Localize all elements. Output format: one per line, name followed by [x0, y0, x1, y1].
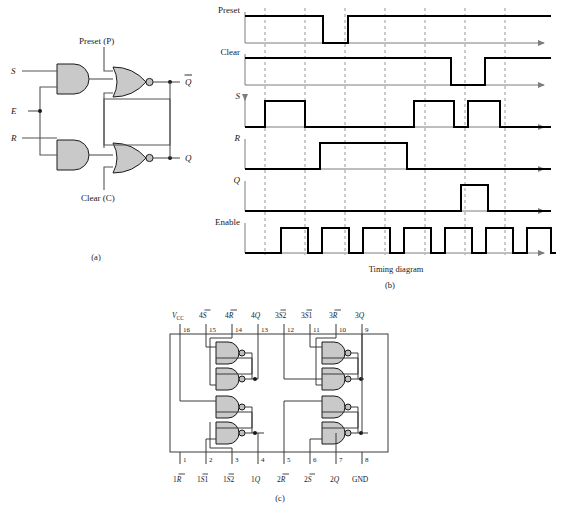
- pin-number-12: 12: [287, 326, 295, 334]
- pin-label-3rbar: 3R: [329, 310, 341, 320]
- pin-label-4rbar: 4R: [225, 310, 237, 320]
- pin-label-vcc-text: VCC: [172, 311, 184, 321]
- clear-label: Clear (C): [81, 193, 115, 203]
- pin-label-vcc: VCC: [172, 311, 184, 321]
- signal-row-r: R: [234, 133, 552, 169]
- pin-label-1q: 1Q: [251, 475, 261, 484]
- nor-gate-top: [113, 67, 153, 97]
- signal-label-clear: Clear: [221, 47, 241, 57]
- svg-text:3S1: 3S1: [301, 311, 313, 320]
- svg-text:1S1: 1S1: [197, 475, 209, 484]
- svg-text:3Q: 3Q: [355, 311, 365, 320]
- logic-diagram-panel: S E R Preset (P) Clear (C) Q Q (a): [0, 0, 200, 285]
- pin-label-1rbar: 1R: [173, 474, 185, 484]
- ic-bottom-pins: [180, 452, 362, 464]
- pin-label-4sbar: 4S: [199, 310, 211, 320]
- svg-text:2R: 2R: [277, 475, 286, 484]
- page-footer-ghost: [382, 494, 557, 504]
- signal-label-r: R: [234, 133, 241, 143]
- svg-text:1Q: 1Q: [251, 475, 261, 484]
- signal-row-s: S: [236, 91, 552, 127]
- caption-c: (c): [275, 493, 285, 503]
- pin-label-4q: 4Q: [251, 311, 261, 320]
- pin-label-3q: 3Q: [355, 311, 365, 320]
- pin-number-8: 8: [365, 456, 369, 464]
- output-label-q: Q: [185, 153, 192, 163]
- and-gate-bottom: [57, 140, 89, 170]
- signal-row-enable: Enable: [215, 217, 556, 253]
- preset-label: Preset (P): [79, 36, 114, 46]
- timing-diagram-title: Timing diagram: [369, 264, 424, 274]
- svg-text:3S2: 3S2: [275, 311, 287, 320]
- ic-package-outline: [170, 334, 388, 452]
- pin-number-15: 15: [209, 326, 217, 334]
- pin-label-3sbar1: 3S1: [301, 310, 313, 320]
- ic-top-pins: [180, 324, 362, 334]
- caption-a: (a): [91, 252, 101, 262]
- ic-diagram-panel: 16 15 14 13 12 11 10 9 1 2 3 4 5 6 7 8 V…: [140, 296, 420, 505]
- caption-b: (b): [385, 280, 395, 290]
- pin-label-1sbar1: 1S1: [197, 474, 209, 484]
- pin-number-6: 6: [313, 456, 317, 464]
- svg-text:3R: 3R: [329, 311, 338, 320]
- pin-label-2q: 2Q: [330, 475, 340, 484]
- latch-4: [206, 334, 258, 390]
- pin-number-2: 2: [209, 456, 213, 464]
- pin-number-16: 16: [183, 326, 191, 334]
- svg-text:GND: GND: [352, 475, 369, 484]
- pin-number-9: 9: [365, 326, 369, 334]
- latch-3: [284, 334, 364, 390]
- pin-label-2rbar: 2R: [277, 474, 289, 484]
- signal-label-preset: Preset: [218, 5, 240, 15]
- input-label-r: R: [10, 133, 17, 143]
- svg-text:4Q: 4Q: [251, 311, 261, 320]
- pin-number-13: 13: [261, 326, 269, 334]
- and-gate-top: [57, 64, 89, 94]
- timing-diagram-panel: Preset Clear S R Q Enable Timing diagram: [196, 0, 561, 285]
- pin-number-5: 5: [287, 456, 291, 464]
- svg-text:Q: Q: [185, 77, 192, 87]
- signal-row-q: Q: [234, 175, 552, 211]
- pin-number-4: 4: [261, 456, 265, 464]
- pin-label-gnd: GND: [352, 475, 369, 484]
- pin-label-3sbar2: 3S2: [275, 310, 287, 320]
- wires: [22, 47, 180, 190]
- signal-label-q: Q: [234, 175, 241, 185]
- output-label-qbar: Q: [185, 75, 193, 87]
- svg-text:4S: 4S: [199, 311, 207, 320]
- caption-b-wrap: (b): [385, 274, 395, 292]
- input-label-s: S: [11, 66, 16, 76]
- svg-text:2Q: 2Q: [330, 475, 340, 484]
- pin-label-1sbar2: 1S2: [223, 474, 235, 484]
- input-label-e: E: [10, 106, 17, 116]
- pin-number-10: 10: [339, 326, 347, 334]
- pin-number-14: 14: [235, 326, 243, 334]
- pin-number-3: 3: [235, 456, 239, 464]
- pin-label-2sbar: 2S: [304, 474, 315, 484]
- timing-gridlines: [265, 8, 505, 255]
- signal-row-clear: Clear: [221, 47, 552, 85]
- signal-label-s: S: [236, 91, 241, 101]
- svg-text:1S2: 1S2: [223, 475, 235, 484]
- svg-text:4R: 4R: [225, 311, 234, 320]
- signal-label-enable: Enable: [215, 217, 240, 227]
- pin-number-7: 7: [339, 456, 343, 464]
- pin-number-1: 1: [183, 456, 187, 464]
- signal-row-preset: Preset: [218, 5, 551, 43]
- svg-text:2S: 2S: [304, 475, 312, 484]
- svg-text:1R: 1R: [173, 475, 182, 484]
- nor-gate-bottom: [113, 143, 153, 173]
- pin-number-11: 11: [313, 326, 320, 334]
